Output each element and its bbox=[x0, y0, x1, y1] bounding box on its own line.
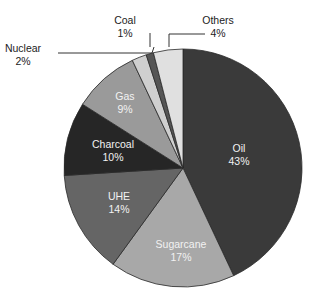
label-coal: Coal1% bbox=[114, 14, 136, 39]
label-nuclear: Nuclear2% bbox=[5, 42, 42, 67]
nuclear-leader-line bbox=[58, 47, 154, 53]
label-gas: Gas9% bbox=[115, 90, 134, 115]
others-leader-line bbox=[169, 34, 205, 47]
pie-chart: Oil43%Sugarcane17%UHE14%Charcoal10%Gas9%… bbox=[0, 0, 316, 306]
label-uhe: UHE14% bbox=[108, 190, 130, 215]
label-others: Others4% bbox=[202, 14, 234, 39]
